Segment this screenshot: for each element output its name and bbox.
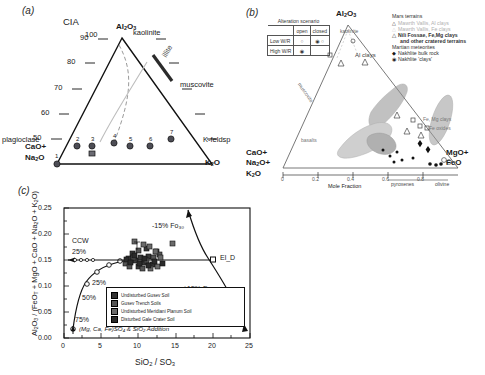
legend-swatch-icon	[111, 292, 118, 299]
legend-swatch-icon	[111, 300, 118, 307]
panel-c-ytick: 0.10	[38, 282, 52, 289]
panel-a-ytick-70: 70	[54, 84, 62, 92]
legend-item-label: Gusev Trench Soils	[121, 301, 161, 306]
legend-item: Disturbed Gale Crater Soil	[111, 315, 240, 323]
panel-b-label-fe-mg-clays: Fe, Mg clays	[423, 117, 451, 122]
legend-item-label: Disturbed Gale Crater Soil	[121, 317, 175, 322]
panel-c-legend: Undisturbed Gusev Soil Gusev Trench Soil…	[106, 287, 245, 327]
panel-c-xtick: 15	[171, 342, 179, 349]
panel-c-alteration-scatter: (c) Al2O3 / (FeOT + MgO + CaO + Na2O + K…	[18, 186, 288, 375]
panel-c-eld-marker	[211, 257, 216, 262]
panel-c-ytick: 0.05	[38, 308, 52, 315]
panel-a-plot	[0, 0, 245, 190]
panel-c-ytick: 0.20	[38, 230, 52, 237]
panel-a-ytick-60: 60	[41, 109, 49, 117]
panel-c-annotation-eld: El_D	[220, 254, 235, 261]
panel-b-label-kaolinite: kaolinite	[340, 29, 358, 34]
panel-a-point-number: 3	[91, 136, 94, 142]
panel-c-annotation-ccw: CCW	[72, 237, 89, 244]
panel-b-xaxis-label: Mole Fraction	[328, 184, 361, 190]
panel-c-ytick: 0.25	[38, 204, 52, 211]
panel-b-xtick: 0.8	[417, 177, 424, 182]
panel-a-point-number: 7	[170, 129, 173, 135]
panel-a-illite-bar	[153, 55, 172, 81]
panel-c-xtick: 25	[245, 342, 253, 349]
panel-a-ytick-100: 100	[85, 31, 98, 39]
panel-c-annotation-minus-fo: -15% Fo₃₀	[152, 222, 184, 229]
panel-a-ytick-80: 80	[67, 58, 75, 66]
panel-a-data-points	[54, 136, 174, 167]
panel-b-xtick: 0.2	[312, 177, 319, 182]
panel-b-xtick: 0.6	[382, 177, 389, 182]
panel-a-trend-dashed	[115, 45, 129, 140]
panel-c-annotation-75pct: 75%	[75, 316, 89, 323]
panel-b-label-al-clays: Al clays	[355, 52, 376, 58]
panel-b-label-basalts: basalts	[301, 138, 317, 143]
panel-c-annotation-50pct: 50%	[82, 294, 96, 301]
panel-a-cia-ternary: (a) CIA Al2O3 CaO+Na2O K2O kaolinite ill…	[0, 0, 245, 190]
panel-a-point-number: 4	[113, 133, 116, 139]
panel-c-annotation-25pct: 25%	[92, 279, 106, 286]
panel-a-point-number: 2	[76, 136, 79, 142]
panel-a-ytick-50: 50	[33, 134, 41, 142]
panel-b-label-olivine: olivine	[435, 182, 449, 187]
panel-c-data-points	[123, 239, 175, 271]
panel-c-xaxis-label: SiO2 / SO3	[135, 358, 175, 368]
legend-item-label: Undisturbed Gusev Soil	[121, 293, 169, 298]
panel-b-label-fe-oxides: Fe oxides	[429, 126, 451, 131]
legend-item: Undisturbed Meridiani Planum Soil	[111, 307, 240, 315]
panel-a-point-number: 6	[149, 136, 152, 142]
legend-item: Gusev Trench Soils	[111, 299, 240, 307]
legend-swatch-icon	[111, 316, 118, 323]
panel-c-xtick: 20	[208, 342, 216, 349]
panel-a-right-ticks	[156, 39, 217, 139]
panel-b-label-pyroxenes: pyroxenes	[391, 182, 414, 187]
panel-b-plot	[245, 0, 485, 190]
panel-a-point-number: 1	[55, 153, 58, 159]
legend-item-label: Undisturbed Meridiani Planum Soil	[121, 309, 191, 314]
panel-c-xtick: 5	[98, 342, 102, 349]
panel-a-trend-solid	[100, 62, 147, 142]
panel-c-annotation-ccw-pct: 25%	[72, 248, 86, 255]
panel-b-xtick: 0	[281, 177, 284, 182]
legend-swatch-icon	[111, 308, 118, 315]
panel-b-xtick: 0.4	[347, 177, 354, 182]
legend-item: Undisturbed Gusev Soil	[111, 291, 240, 299]
panel-c-xtick: 10	[133, 342, 141, 349]
panel-c-ytick: 0.00	[38, 334, 52, 341]
panel-c-xtick: 0	[61, 342, 65, 349]
panel-a-point-number: 5	[129, 136, 132, 142]
panel-b-mars-ternary: (b) Alteration scenario open closed Low …	[245, 0, 485, 190]
panel-c-ytick: 0.15	[38, 256, 52, 263]
